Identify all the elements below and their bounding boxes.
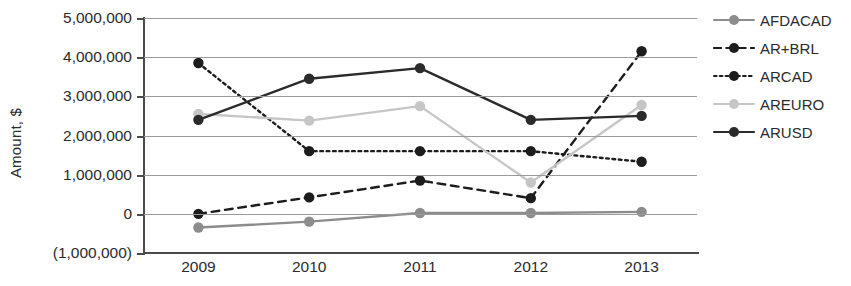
legend-label: AFDACAD xyxy=(756,12,832,29)
legend-item-arcad[interactable]: ARCAD xyxy=(712,62,851,90)
legend-item-arplusbrl[interactable]: AR+BRL xyxy=(712,34,851,62)
y-tick-mark xyxy=(137,214,144,216)
y-tick-mark xyxy=(137,136,144,138)
y-tick-label: 0 xyxy=(24,206,132,222)
y-tick-mark xyxy=(137,57,144,59)
data-point xyxy=(415,146,425,156)
y-tick-label: 5,000,000 xyxy=(24,10,132,26)
legend-item-arusd[interactable]: ARUSD xyxy=(712,118,851,146)
y-tick-mark xyxy=(137,18,144,20)
series-line xyxy=(198,51,641,214)
data-point xyxy=(415,63,425,73)
data-point xyxy=(415,175,425,185)
x-tick-label: 2011 xyxy=(380,258,460,276)
legend-marker-icon xyxy=(712,68,756,84)
x-tick-label: 2013 xyxy=(602,258,682,276)
data-point xyxy=(526,177,536,187)
data-point xyxy=(636,157,646,167)
y-axis-tick-labels: 5,000,0004,000,0003,000,0002,000,0001,00… xyxy=(22,0,132,286)
legend-label: AR+BRL xyxy=(756,40,819,57)
legend-marker-icon xyxy=(712,96,756,112)
line-chart: Amount, $ 5,000,0004,000,0003,000,0002,0… xyxy=(0,0,851,286)
data-point xyxy=(304,146,314,156)
legend-item-areuro[interactable]: AREURO xyxy=(712,90,851,118)
gridline xyxy=(143,96,697,97)
data-point xyxy=(193,58,203,68)
gridline xyxy=(143,18,697,19)
series-arcad xyxy=(193,58,647,167)
data-point xyxy=(636,207,646,217)
data-point xyxy=(304,74,314,84)
data-point xyxy=(304,216,314,226)
data-point xyxy=(304,192,314,202)
legend-label: AREURO xyxy=(756,96,824,113)
gridline xyxy=(143,214,697,215)
legend-item-afdacad[interactable]: AFDACAD xyxy=(712,6,851,34)
data-point xyxy=(415,101,425,111)
y-tick-mark xyxy=(137,253,144,255)
y-tick-label: (1,000,000) xyxy=(24,245,132,261)
chart-legend: AFDACADAR+BRLARCADAREUROARUSD xyxy=(712,6,851,146)
x-tick-label: 2009 xyxy=(158,258,238,276)
y-tick-label: 4,000,000 xyxy=(24,49,132,65)
x-tick-label: 2010 xyxy=(269,258,349,276)
data-point xyxy=(193,115,203,125)
y-tick-mark xyxy=(137,96,144,98)
series-line xyxy=(198,68,641,120)
data-point xyxy=(526,146,536,156)
legend-marker-icon xyxy=(712,12,756,28)
data-point xyxy=(636,100,646,110)
data-point xyxy=(636,111,646,121)
gridline xyxy=(143,57,697,58)
data-point xyxy=(636,46,646,56)
legend-marker-icon xyxy=(712,124,756,140)
plot-area xyxy=(143,18,697,253)
data-point xyxy=(193,222,203,232)
legend-label: ARCAD xyxy=(756,68,813,85)
gridline xyxy=(143,136,697,137)
series-arusd xyxy=(193,63,647,125)
x-tick-label: 2012 xyxy=(491,258,571,276)
y-tick-label: 1,000,000 xyxy=(24,167,132,183)
gridline xyxy=(143,175,697,176)
series-afdacad xyxy=(193,207,647,233)
y-tick-label: 3,000,000 xyxy=(24,88,132,104)
data-point xyxy=(304,115,314,125)
legend-marker-icon xyxy=(712,40,756,56)
data-point xyxy=(526,115,536,125)
y-tick-mark xyxy=(137,175,144,177)
data-point xyxy=(526,193,536,203)
legend-label: ARUSD xyxy=(756,124,813,141)
y-tick-label: 2,000,000 xyxy=(24,128,132,144)
